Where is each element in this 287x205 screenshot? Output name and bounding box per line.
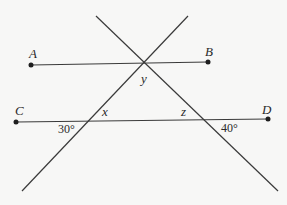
label-b: B xyxy=(205,44,213,59)
segment-ab xyxy=(31,62,208,65)
point-a xyxy=(29,63,34,68)
transversal-line-1 xyxy=(96,16,278,191)
label-c: C xyxy=(15,103,24,118)
angle-label-y: y xyxy=(139,71,147,86)
label-d: D xyxy=(261,102,272,117)
point-b xyxy=(206,60,211,65)
point-c xyxy=(14,120,19,125)
angle-label-z: z xyxy=(180,104,186,119)
angle-label-30: 30° xyxy=(58,122,75,136)
geometry-diagram: A B C D y x z 30° 40° xyxy=(0,0,287,205)
angle-label-x: x xyxy=(101,104,108,119)
angle-label-40: 40° xyxy=(221,121,238,135)
point-d xyxy=(266,117,271,122)
label-a: A xyxy=(28,46,37,61)
